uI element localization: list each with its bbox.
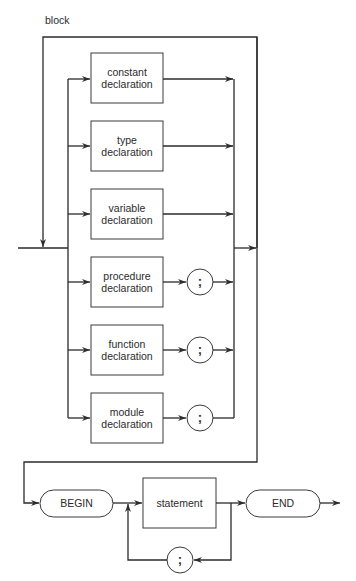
semicolon-symbol: ; [198,342,202,357]
declaration-function: function declaration [91,325,163,375]
end-keyword: END [246,490,320,517]
declaration-procedure: procedure declaration [91,257,163,307]
box-label-line1: variable [109,202,146,214]
declaration-constant: constant declaration [91,53,163,103]
declaration-module: module declaration [91,393,163,443]
begin-label: BEGIN [60,497,93,509]
box-label-line1: type [117,134,137,146]
semicolon-symbol: ; [198,274,202,289]
box-label-line2: declaration [101,282,153,294]
end-label: END [272,497,295,509]
box-label-line2: declaration [101,350,153,362]
box-label-line1: constant [107,66,147,78]
box-label-line1: function [109,338,146,350]
block-syntax-diagram: block constant declaration type declarat… [0,0,356,581]
diagram-title: block [45,14,70,26]
statement-label: statement [156,497,202,509]
begin-keyword: BEGIN [40,490,113,517]
box-label-line2: declaration [101,214,153,226]
declaration-variable: variable declaration [91,189,163,239]
loop-semicolon-symbol: ; [178,552,182,567]
semicolon-module: ; [163,405,234,431]
box-label-line1: procedure [103,270,150,282]
direct-exit-arrows [163,79,233,214]
box-label-line2: declaration [101,78,153,90]
box-label-line1: module [110,406,145,418]
semicolon-procedure: ; [163,269,233,295]
declaration-type: type declaration [91,121,163,171]
statement: statement [143,478,216,528]
semicolon-symbol: ; [198,410,202,425]
box-label-line2: declaration [101,418,153,430]
branch-arrows [68,79,90,418]
semicolon-function: ; [163,337,233,363]
box-label-line2: declaration [101,146,153,158]
